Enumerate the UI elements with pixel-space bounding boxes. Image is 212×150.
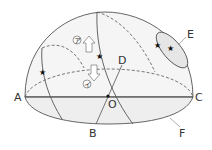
leader-e <box>178 37 186 45</box>
leader-f <box>170 118 180 127</box>
label-a: A <box>14 91 22 104</box>
label-b: B <box>89 127 97 140</box>
label-o: O <box>108 98 117 111</box>
label-d: D <box>118 54 126 67</box>
star-icon: ★ <box>39 68 46 77</box>
arrow-label-up: ア <box>74 37 81 45</box>
label-c: C <box>195 91 203 104</box>
label-e: E <box>187 28 194 41</box>
label-f: F <box>179 127 185 140</box>
celestial-hemisphere-diagram: ★ ★ ★ ★ ア イ A B C D E F O <box>0 0 212 150</box>
star-icon: ★ <box>167 44 174 53</box>
arrow-label-down: イ <box>84 81 91 89</box>
star-icon: ★ <box>96 52 103 61</box>
star-icon: ★ <box>154 41 161 50</box>
